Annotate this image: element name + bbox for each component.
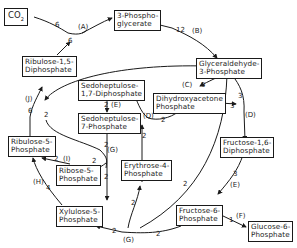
coef-g3p-g: 2 (183, 180, 187, 188)
dihydroxyacetone-phosphate-node: Dihydroxyacetone Phosphate (153, 93, 226, 114)
ribose-5-phosphate-node: Ribose-5- Phosphate (56, 165, 101, 186)
coef-to-r5p: 2 (92, 157, 96, 165)
ribulose-5-phosphate-node: Ribulose-5- Phosphate (8, 136, 56, 157)
reaction-label-d-sbp: (D) (143, 112, 154, 120)
coef-co2: 6 (55, 21, 59, 29)
coef-pga: 12 (176, 26, 185, 34)
coef-e4p-sbp: 2 (142, 132, 146, 140)
coef-r5p-ru5p: 2 (54, 155, 58, 163)
sedoheptulose-7-phosphate-node: Sedoheptulose- 7-Phosphate (78, 113, 141, 134)
fructose-6-phosphate-node: Fructose-6- Phosphate (176, 205, 223, 226)
coef-g3p-loop: 2 (44, 111, 48, 119)
coef-g-e4p: 2 (131, 199, 135, 207)
coef-dhap-fbp: 3 (230, 102, 234, 110)
coef-sbp-s7p: 2 (104, 101, 108, 109)
reaction-label-d-fbp: (D) (245, 111, 256, 119)
reaction-label-f: (F) (236, 212, 246, 220)
coef-ru5p-rubp: 6 (28, 107, 32, 115)
coef-s7p-g: 2 (104, 141, 108, 149)
co2-node: CO2 (4, 8, 28, 26)
sedoheptulose-1-7-diphosphate-node: Sedoheptulose- 1,7-Diphosphate (78, 80, 145, 101)
reaction-label-c: (C) (182, 81, 192, 89)
ribulose-1-5-diphosphate-node: Ribulose-1,5- Diphosphate (22, 56, 77, 77)
xylulose-5-phosphate-node: Xylulose-5- Phosphate (56, 206, 103, 227)
reaction-label-i: (I) (63, 155, 71, 163)
reaction-label-h: (H) (33, 178, 44, 186)
reaction-label-j: (J) (25, 95, 33, 103)
reaction-label-g-bottom: (G) (123, 236, 134, 244)
coef-g3p-fbp: 3 (238, 92, 242, 100)
reaction-label-e-sbp: (E) (111, 101, 121, 109)
glucose-6-phosphate-node: Glucose-6- Phosphate (248, 221, 293, 242)
reaction-arrows (0, 0, 297, 248)
reaction-label-g-top: (G) (107, 146, 118, 154)
coef-g3p-dhap: 5 (201, 81, 205, 89)
coef-s7p-x5p: 2 (104, 173, 108, 181)
coef-dhap-sbp: 2 (161, 116, 165, 124)
calvin-cycle-diagram: CO2 3-Phospho- glycerate Ribulose-1,5- D… (0, 0, 297, 248)
coef-f6p-g6p: 1 (229, 216, 233, 224)
coef-rubp: 6 (68, 37, 72, 45)
reaction-label-e-fbp: (E) (230, 181, 240, 189)
coef-f6p-g: 2 (156, 230, 160, 238)
reaction-label-b: (B) (192, 27, 202, 35)
coef-x5p-ru5p: 4 (46, 184, 50, 192)
erythrose-4-phosphate-node: Erythrose-4- Phosphate (121, 160, 172, 181)
glyceraldehyde-3-phosphate-node: Glyceraldehyde- 3-Phosphate (196, 58, 262, 79)
coef-f6p-x5p: 2 (112, 227, 116, 235)
fructose-1-6-diphosphate-node: Fructose-1,6- Diphosphate (220, 137, 274, 158)
coef-fbp-f6p: 3 (233, 170, 237, 178)
reaction-label-a: (A) (78, 23, 88, 31)
3-phosphoglycerate-node: 3-Phospho- glycerate (114, 10, 161, 31)
